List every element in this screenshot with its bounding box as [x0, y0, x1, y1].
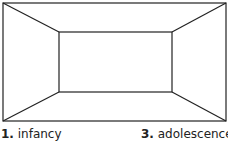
label-infancy: 1. infancy [1, 126, 62, 142]
corner-line-top-left [3, 3, 59, 32]
label-text: adolescence [158, 127, 228, 141]
inner-rectangle [59, 32, 172, 92]
corner-line-top-right [172, 3, 226, 32]
label-number: 1. [1, 127, 14, 141]
perspective-room-diagram [0, 0, 228, 142]
label-text: infancy [18, 127, 62, 141]
label-adolescence: 3. adolescence [141, 126, 228, 142]
corner-line-bottom-left [3, 92, 59, 121]
label-number: 3. [141, 127, 154, 141]
corner-line-bottom-right [172, 92, 226, 121]
